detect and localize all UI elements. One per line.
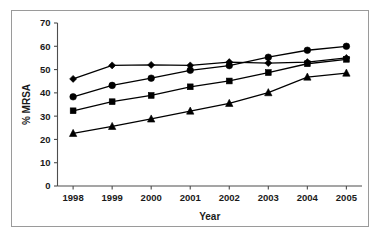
series-square-square-marker xyxy=(226,78,232,84)
axis-lines xyxy=(54,23,362,190)
series-circle-circle-marker xyxy=(265,54,272,61)
y-tick-label: 0 xyxy=(45,180,50,191)
y-axis-title: % MRSA xyxy=(21,84,32,125)
x-axis-title: Year xyxy=(199,211,220,222)
series-square-square-marker xyxy=(304,61,310,67)
x-tick-label: 2002 xyxy=(219,192,240,203)
y-tick-label: 60 xyxy=(40,41,51,52)
x-tick-label: 2005 xyxy=(336,192,358,203)
series-square-square-marker xyxy=(148,93,154,99)
series-circle-circle-marker xyxy=(226,62,233,69)
series-circle xyxy=(70,43,350,100)
x-tick-label: 1998 xyxy=(63,192,84,203)
series-square-square-marker xyxy=(70,108,76,114)
series-square-square-marker xyxy=(265,70,271,76)
x-tick-label: 2004 xyxy=(297,192,319,203)
series-square-square-marker xyxy=(109,99,115,105)
y-tick-label: 30 xyxy=(40,111,51,122)
series-circle-circle-marker xyxy=(304,47,311,54)
y-tick-label: 20 xyxy=(40,134,51,145)
series-circle-circle-marker xyxy=(70,94,77,101)
series-square-square-marker xyxy=(187,84,193,90)
figure-container: 010203040506070 199819992000200120022003… xyxy=(0,0,389,242)
series-triangle-triangle-marker xyxy=(343,69,350,76)
data-series-group xyxy=(69,43,350,137)
series-diamond-diamond-marker xyxy=(109,62,116,69)
y-tick-label: 10 xyxy=(40,157,51,168)
x-tick-label: 2000 xyxy=(141,192,162,203)
series-circle-circle-marker xyxy=(109,82,116,89)
series-square-square-marker xyxy=(343,56,349,62)
y-tick-label: 50 xyxy=(40,64,51,75)
series-diamond-diamond-marker xyxy=(70,75,77,82)
series-circle-line xyxy=(73,46,346,97)
x-tick-label: 1999 xyxy=(102,192,123,203)
series-diamond-diamond-marker xyxy=(148,61,155,68)
y-axis-tick-labels: 010203040506070 xyxy=(40,17,51,191)
series-circle-circle-marker xyxy=(187,67,194,74)
series-circle-circle-marker xyxy=(148,75,155,82)
x-tick-label: 2003 xyxy=(258,192,279,203)
series-circle-circle-marker xyxy=(343,43,350,50)
x-axis-tick-labels: 19981999200020012002200320042005 xyxy=(63,192,358,203)
y-tick-label: 40 xyxy=(40,87,51,98)
chart-plot: 010203040506070 199819992000200120022003… xyxy=(0,0,389,242)
x-tick-label: 2001 xyxy=(180,192,202,203)
y-tick-label: 70 xyxy=(40,17,51,28)
